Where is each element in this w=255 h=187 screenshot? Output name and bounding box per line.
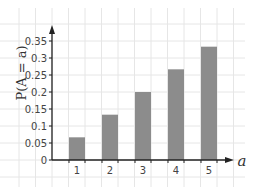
x-tick-labels: 12345 — [69, 160, 217, 176]
y-axis-arrow-icon — [49, 25, 55, 34]
bar-4 — [168, 69, 184, 160]
y-tick-label: 0.1 — [31, 121, 47, 132]
y-tick-label: 0.15 — [25, 104, 47, 115]
x-tick-label: 3 — [140, 165, 146, 176]
x-tick-label: 2 — [107, 165, 113, 176]
bar-2 — [102, 115, 118, 160]
bar-5 — [201, 47, 217, 160]
y-tick-label: 0.05 — [25, 138, 47, 149]
x-axis-label: a — [238, 152, 247, 170]
y-tick-label: 0.3 — [31, 53, 47, 64]
bar-3 — [135, 92, 151, 160]
y-tick-label: 0.2 — [31, 87, 47, 98]
y-axis-label: P(A = a) — [14, 45, 29, 100]
x-axis-arrow-icon — [225, 157, 234, 163]
x-tick-label: 5 — [206, 165, 212, 176]
y-tick-label: 0.35 — [25, 36, 47, 47]
x-tick-label: 4 — [173, 165, 179, 176]
y-tick-label: 0 — [41, 155, 47, 166]
x-tick-label: 1 — [74, 165, 80, 176]
probability-bar-chart: 00.050.10.150.20.250.30.35 12345 a P(A =… — [0, 0, 255, 187]
bar-1 — [69, 137, 85, 160]
